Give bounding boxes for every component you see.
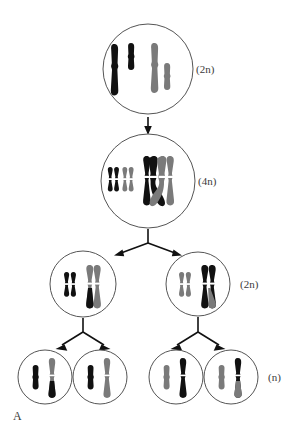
gamete-cell-2[interactable] — [73, 350, 127, 404]
secondary-cell-right[interactable]: (2n) — [166, 252, 259, 316]
cell-membrane — [166, 252, 230, 316]
arrow-meiosis-II-right-group — [171, 317, 226, 351]
replicated-cell[interactable]: (4n) — [101, 134, 217, 228]
ploidy-label-replicated: (4n) — [198, 175, 217, 188]
cell-membrane — [50, 251, 116, 317]
meiosis-figure-canvas: (2n) — [0, 0, 299, 440]
parent-cell[interactable]: (2n) — [103, 24, 215, 114]
cell-membrane — [149, 350, 203, 404]
chromosome-short-black-chromatid — [32, 365, 38, 390]
arrow-meiosis-I-group — [114, 229, 182, 256]
panel-label: A — [13, 409, 22, 423]
cell-membrane — [18, 350, 72, 404]
ploidy-label-gamete: (n) — [268, 371, 281, 384]
secondary-cell-left[interactable] — [50, 251, 116, 317]
cell-membrane — [204, 350, 258, 404]
gamete-cell-3[interactable] — [149, 350, 203, 404]
chromosome-short-gray-unreplicated — [164, 63, 171, 90]
gamete-cell-4[interactable]: (n) — [204, 350, 281, 404]
ploidy-label-secondary: (2n) — [240, 278, 259, 291]
chromosome-short-black-unreplicated — [128, 43, 135, 70]
ploidy-label-parent: (2n) — [196, 63, 215, 76]
arrow-meiosis-II-left-group — [56, 318, 111, 351]
arrow-replication — [144, 117, 152, 135]
cell-membrane — [73, 350, 127, 404]
chromosome-short-gray-chromatid — [218, 365, 224, 390]
chromosome-short-gray-chromatid — [163, 365, 169, 390]
chromosome-short-black-chromatid — [87, 365, 93, 390]
meiosis-diagram: (2n) — [0, 0, 299, 440]
gamete-cell-1[interactable] — [18, 350, 72, 404]
